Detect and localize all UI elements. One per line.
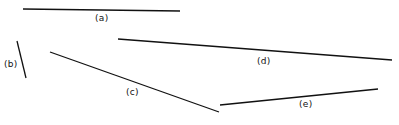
line-label-d: (d) [257, 57, 271, 66]
line-segment-a [23, 9, 180, 11]
line-label-c: (c) [126, 88, 139, 97]
line-segments-canvas [0, 0, 399, 125]
line-label-a: (a) [95, 14, 108, 23]
line-label-e: (e) [299, 100, 312, 109]
line-segment-b [17, 41, 26, 78]
line-segment-c [50, 52, 219, 112]
line-label-b: (b) [4, 60, 18, 69]
line-segment-d [118, 39, 392, 60]
line-segments-figure: (a) (b) (c) (d) (e) [0, 0, 399, 125]
